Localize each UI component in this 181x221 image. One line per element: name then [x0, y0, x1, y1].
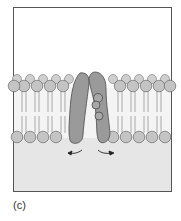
membrane-diagram: [0, 0, 181, 221]
cytoplasm-region: [14, 138, 171, 191]
panel-label: (c): [13, 199, 26, 211]
